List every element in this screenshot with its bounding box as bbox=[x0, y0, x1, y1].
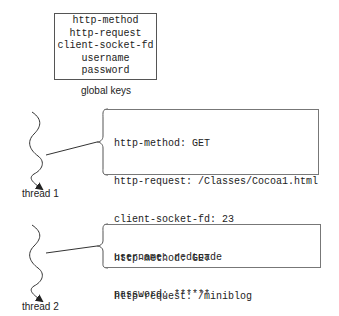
thread-1-entry-http-request: http-request: /Classes/Cocoa1.html bbox=[114, 176, 318, 189]
thread-2-keys-box: http-method: GET http-request: /miniblog… bbox=[104, 224, 321, 268]
thread-2-entry-http-method: http-method: GET bbox=[114, 253, 320, 266]
thread-2-connector bbox=[46, 246, 97, 253]
thread-2-entry-http-request: http-request: /miniblog bbox=[114, 291, 320, 304]
thread-2-label: thread 2 bbox=[22, 301, 59, 312]
thread-2-wavy-line bbox=[30, 225, 43, 301]
thread-1-label: thread 1 bbox=[22, 188, 59, 199]
thread-1-wavy-line bbox=[30, 112, 43, 189]
thread-1-entry-http-method: http-method: GET bbox=[114, 138, 318, 151]
thread-1-keys-box: http-method: GET http-request: /Classes/… bbox=[104, 109, 319, 175]
thread-1-connector bbox=[46, 142, 97, 155]
